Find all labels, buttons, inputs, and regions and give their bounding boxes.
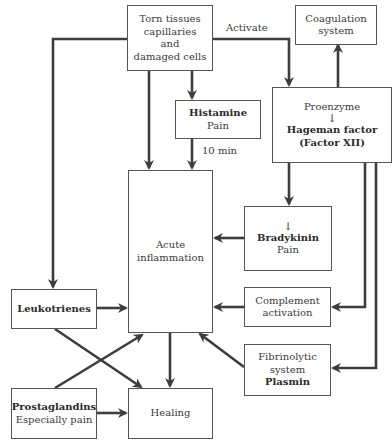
node-text: Pain [277, 244, 299, 257]
node-title: Histamine [189, 107, 247, 120]
node-text: and [161, 38, 180, 51]
edge-hageman-to-complement [333, 163, 365, 307]
node-title: Leukotrienes [17, 303, 91, 316]
node-text: Especially pain [16, 414, 93, 427]
node-text: inflammation [137, 252, 204, 265]
node-title: Prostaglandins [12, 401, 96, 414]
node-text: Healing [151, 407, 191, 420]
node-title: Bradykinin [257, 232, 319, 245]
edge-torn-to-leukotrienes [53, 39, 127, 287]
node-torn-tissues: Torn tissues capillaries and damaged cel… [127, 5, 213, 71]
edge-torn-to-hageman [213, 39, 289, 85]
node-text: Coagulation [305, 13, 366, 26]
node-text: system [270, 364, 305, 377]
node-text: Torn tissues [139, 13, 200, 26]
node-prostaglandins: Prostaglandins Especially pain [11, 388, 97, 439]
node-text: Fibrinolytic [258, 351, 317, 364]
node-title: Plasmin [265, 376, 310, 389]
node-healing: Healing [128, 388, 213, 439]
node-text: activation [262, 307, 312, 320]
edge-label-activate: Activate [226, 22, 268, 33]
node-fibrinolytic-system: Fibrinolytic system Plasmin [244, 344, 331, 396]
node-title: (Factor XII) [299, 137, 365, 150]
node-histamine: Histamine Pain [175, 100, 261, 139]
down-arrow-icon: ↓ [283, 221, 292, 232]
node-text: capillaries [144, 26, 197, 39]
node-text: damaged cells [134, 51, 207, 64]
edge-label-10-min: 10 min [202, 145, 237, 156]
node-acute-inflammation: Acute inflammation [128, 170, 213, 333]
node-leukotrienes: Leukotrienes [11, 289, 97, 329]
node-hageman-factor: Proenzyme ↓ Hageman factor (Factor XII) [272, 87, 392, 163]
node-text: Pain [207, 120, 229, 133]
node-bradykinin: ↓ Bradykinin Pain [244, 206, 332, 271]
node-text: Acute [156, 239, 185, 252]
down-arrow-icon: ↓ [327, 113, 336, 124]
node-complement-activation: Complement activation [244, 287, 331, 327]
node-coagulation-system: Coagulation system [295, 5, 377, 45]
node-text: system [318, 25, 353, 38]
edge-fibrinolytic-to-acute [200, 334, 244, 367]
edge-leukotrienes-to-healing [55, 329, 141, 387]
edge-hageman-to-fibrinolytic [333, 163, 376, 368]
node-title: Hageman factor [287, 124, 378, 137]
node-text: Complement [255, 295, 320, 308]
